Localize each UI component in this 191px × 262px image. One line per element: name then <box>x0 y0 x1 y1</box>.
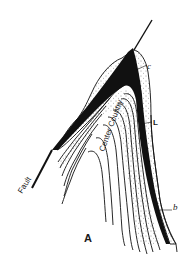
label-fault: Fault <box>16 175 33 196</box>
label-L: L <box>153 118 158 127</box>
fold-cross-section: c L b A Fault Center Country <box>0 0 191 262</box>
fault-line <box>134 20 152 50</box>
panel-label-A: A <box>84 232 92 244</box>
label-c: c <box>147 61 151 71</box>
label-b: b <box>173 202 178 212</box>
geologic-fold-diagram: c L b A Fault Center Country <box>0 0 191 262</box>
fault-trace <box>32 150 52 188</box>
